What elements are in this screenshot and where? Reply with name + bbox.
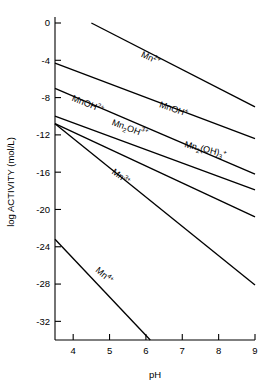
y-tick-label: -4 xyxy=(42,55,50,66)
x-tick-label: 8 xyxy=(216,345,221,356)
x-axis-tick-labels: 456789 xyxy=(71,345,258,356)
y-tick-label: -28 xyxy=(36,278,50,289)
series-label-Mn2+: Mn2+ xyxy=(140,48,163,67)
series-inline-labels: Mn2+MnOH+MnOH2+Mn2OH3+Mn2(OH)3+Mn3+Mn4+ xyxy=(71,48,228,286)
x-tick-label: 9 xyxy=(252,345,257,356)
x-axis-ticks xyxy=(73,334,255,340)
x-tick-label: 7 xyxy=(180,345,185,356)
y-tick-label: -32 xyxy=(36,316,50,327)
y-tick-label: -12 xyxy=(36,129,50,140)
x-tick-label: 5 xyxy=(107,345,112,356)
x-tick-label: 6 xyxy=(143,345,148,356)
series-line-Mn2(OH)3+ xyxy=(55,124,255,217)
y-tick-label: -20 xyxy=(36,204,50,215)
log-activity-vs-ph-plot: 0-4-8-12-16-20-24-28-32 456789 Mn2+MnOH+… xyxy=(0,0,267,386)
series-label-MnOH2+: MnOH2+ xyxy=(71,92,106,115)
x-axis-title: pH xyxy=(149,369,161,380)
series-label-MnOH+: MnOH+ xyxy=(158,98,190,119)
y-tick-label: -24 xyxy=(36,241,50,252)
y-tick-label: -8 xyxy=(42,92,50,103)
series-label-Mn4+: Mn4+ xyxy=(94,264,117,286)
y-tick-label: -16 xyxy=(36,167,50,178)
y-tick-label: 0 xyxy=(45,17,50,28)
series-line-Mn2+ xyxy=(91,23,255,107)
series-line-Mn4+ xyxy=(55,239,150,340)
x-tick-label: 4 xyxy=(71,345,76,356)
y-axis-ticks xyxy=(55,23,61,321)
series-lines xyxy=(55,23,255,340)
chart-figure: 0-4-8-12-16-20-24-28-32 456789 Mn2+MnOH+… xyxy=(0,0,267,386)
y-axis-title: log ACTIVITY (mol/L) xyxy=(5,137,16,227)
series-label-Mn2(OH)3+: Mn2(OH)3+ xyxy=(183,139,228,161)
y-axis-tick-labels: 0-4-8-12-16-20-24-28-32 xyxy=(36,17,50,326)
series-label-Mn2OH3+: Mn2OH3+ xyxy=(110,114,150,141)
